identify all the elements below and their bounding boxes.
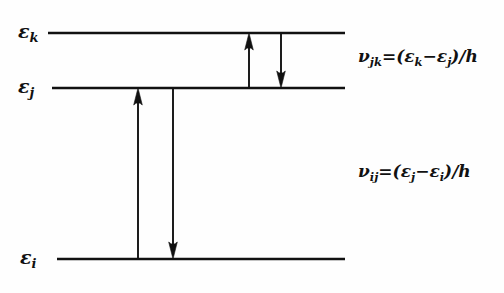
transition-arrow-absorption-j-to-k bbox=[245, 33, 254, 88]
arrow-head-down bbox=[169, 242, 178, 259]
transition-arrow-absorption-i-to-j bbox=[134, 88, 143, 259]
arrow-head-up bbox=[245, 33, 254, 50]
transition-arrow-emission-j-to-i bbox=[169, 88, 178, 259]
energy-level-diagram: εk εj εi νjk=(εk−εj)/h νij=(εj−εi)/h bbox=[0, 0, 504, 293]
energy-levels-group bbox=[48, 33, 345, 259]
arrow-head-down bbox=[277, 71, 286, 88]
transition-arrow-emission-k-to-j bbox=[277, 33, 286, 88]
diagram-vector-layer bbox=[0, 0, 504, 293]
transition-arrows-group bbox=[134, 33, 286, 259]
arrow-head-up bbox=[134, 88, 143, 105]
